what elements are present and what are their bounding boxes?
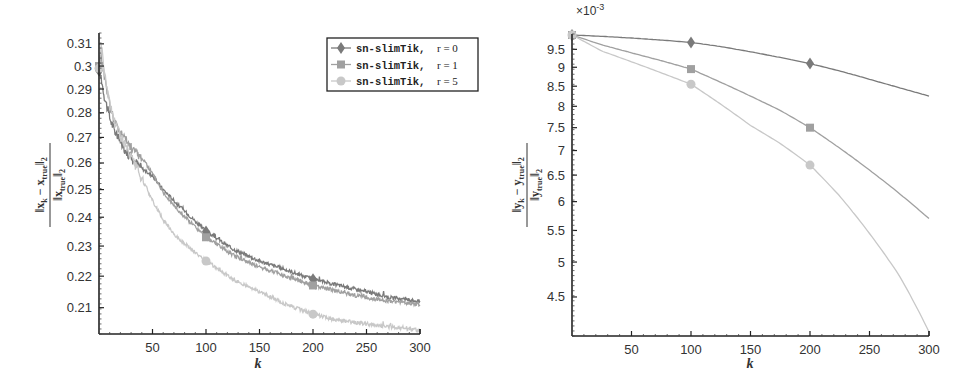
right-series-markers <box>568 29 815 170</box>
right-y-label-denominator: ‖ytrue‖2 <box>528 169 544 201</box>
y-tick-label: 0.25 <box>67 182 92 197</box>
left-x-axis-label: k <box>255 356 262 371</box>
legend-label-1: sn-slimTik, <box>356 60 425 72</box>
right-y-multiplier: ×10-3 <box>576 2 604 18</box>
right-y-axis-label: ‖yk − ytrue‖2 ‖ytrue‖2 <box>510 143 544 227</box>
x-tick-label: 250 <box>859 342 881 357</box>
x-tick-label: 100 <box>680 342 702 357</box>
x-tick-label: 250 <box>356 340 378 355</box>
y-tick-label: 0.24 <box>67 210 92 225</box>
y-tick-label: 5 <box>558 255 565 270</box>
legend-marker-icon-2 <box>337 77 346 86</box>
series-marker-2 <box>309 310 318 319</box>
series-marker-0 <box>687 36 695 48</box>
series-marker-0 <box>806 58 814 70</box>
y-tick-label: 0.3 <box>74 59 92 74</box>
legend-math-1: r = 1 <box>437 59 458 71</box>
x-tick-label: 300 <box>409 340 431 355</box>
y-tick-label: 0.31 <box>67 36 92 51</box>
series-line-0 <box>572 35 929 96</box>
x-tick-label: 50 <box>145 340 159 355</box>
series-marker-2 <box>687 80 696 89</box>
y-tick-label: 0.28 <box>67 105 92 120</box>
y-tick-label: 6.5 <box>547 168 565 183</box>
y-tick-label: 8 <box>558 99 565 114</box>
legend-label-2: sn-slimTik, <box>356 76 425 88</box>
series-line-1 <box>572 35 929 219</box>
x-tick-label: 200 <box>799 342 821 357</box>
y-tick-label: 0.21 <box>67 300 92 315</box>
series-marker-1 <box>687 65 695 73</box>
y-tick-label: 8.5 <box>547 79 565 94</box>
left-legend: sn-slimTik, r = 0sn-slimTik, r = 1sn-sli… <box>327 38 478 91</box>
legend-math-2: r = 5 <box>437 75 458 87</box>
series-line-1 <box>99 55 420 306</box>
y-tick-label: 4.5 <box>547 289 565 304</box>
series-marker-2 <box>806 161 815 170</box>
left-plot-panel: 501001502002503000.210.220.230.240.250.2… <box>33 33 478 371</box>
legend-label-0: sn-slimTik, <box>356 43 425 55</box>
y-tick-label: 0.23 <box>67 239 92 254</box>
y-tick-label: 0.27 <box>67 130 92 145</box>
series-line-2 <box>572 35 929 332</box>
x-tick-label: 150 <box>740 342 762 357</box>
x-tick-label: 150 <box>249 340 271 355</box>
y-tick-label: 0.29 <box>67 82 92 97</box>
x-tick-label: 200 <box>302 340 324 355</box>
right-y-label-numerator: ‖yk − ytrue‖2 <box>510 157 526 212</box>
x-tick-label: 300 <box>918 342 940 357</box>
right-series-lines <box>572 35 929 332</box>
y-tick-label: 0.22 <box>67 269 92 284</box>
series-marker-1 <box>202 233 210 241</box>
y-tick-label: 5.5 <box>547 223 565 238</box>
series-marker-1 <box>309 281 317 289</box>
right-plot-panel: 501001502002503004.555.566.577.588.599.5… <box>510 2 940 371</box>
figure-canvas: 501001502002503000.210.220.230.240.250.2… <box>0 0 977 389</box>
series-marker-1 <box>806 124 814 132</box>
legend-math-0: r = 0 <box>437 42 458 54</box>
left-y-label-numerator: ‖xk − xtrue‖2 <box>33 157 49 212</box>
y-tick-label: 6 <box>558 194 565 209</box>
right-x-axis-label: k <box>747 356 754 371</box>
left-y-label-denominator: ‖xtrue‖2 <box>51 169 67 201</box>
y-tick-label: 7.5 <box>547 120 565 135</box>
y-tick-label: 0.26 <box>67 155 92 170</box>
series-marker-2 <box>202 256 211 265</box>
y-tick-label: 9 <box>558 60 565 75</box>
x-tick-label: 100 <box>195 340 217 355</box>
y-tick-label: 9.5 <box>547 42 565 57</box>
left-y-axis-label: ‖xk − xtrue‖2 ‖xtrue‖2 <box>33 143 67 227</box>
x-tick-label: 50 <box>624 342 638 357</box>
left-series-markers <box>95 62 318 319</box>
legend-marker-icon-1 <box>337 61 345 69</box>
y-tick-label: 7 <box>558 143 565 158</box>
